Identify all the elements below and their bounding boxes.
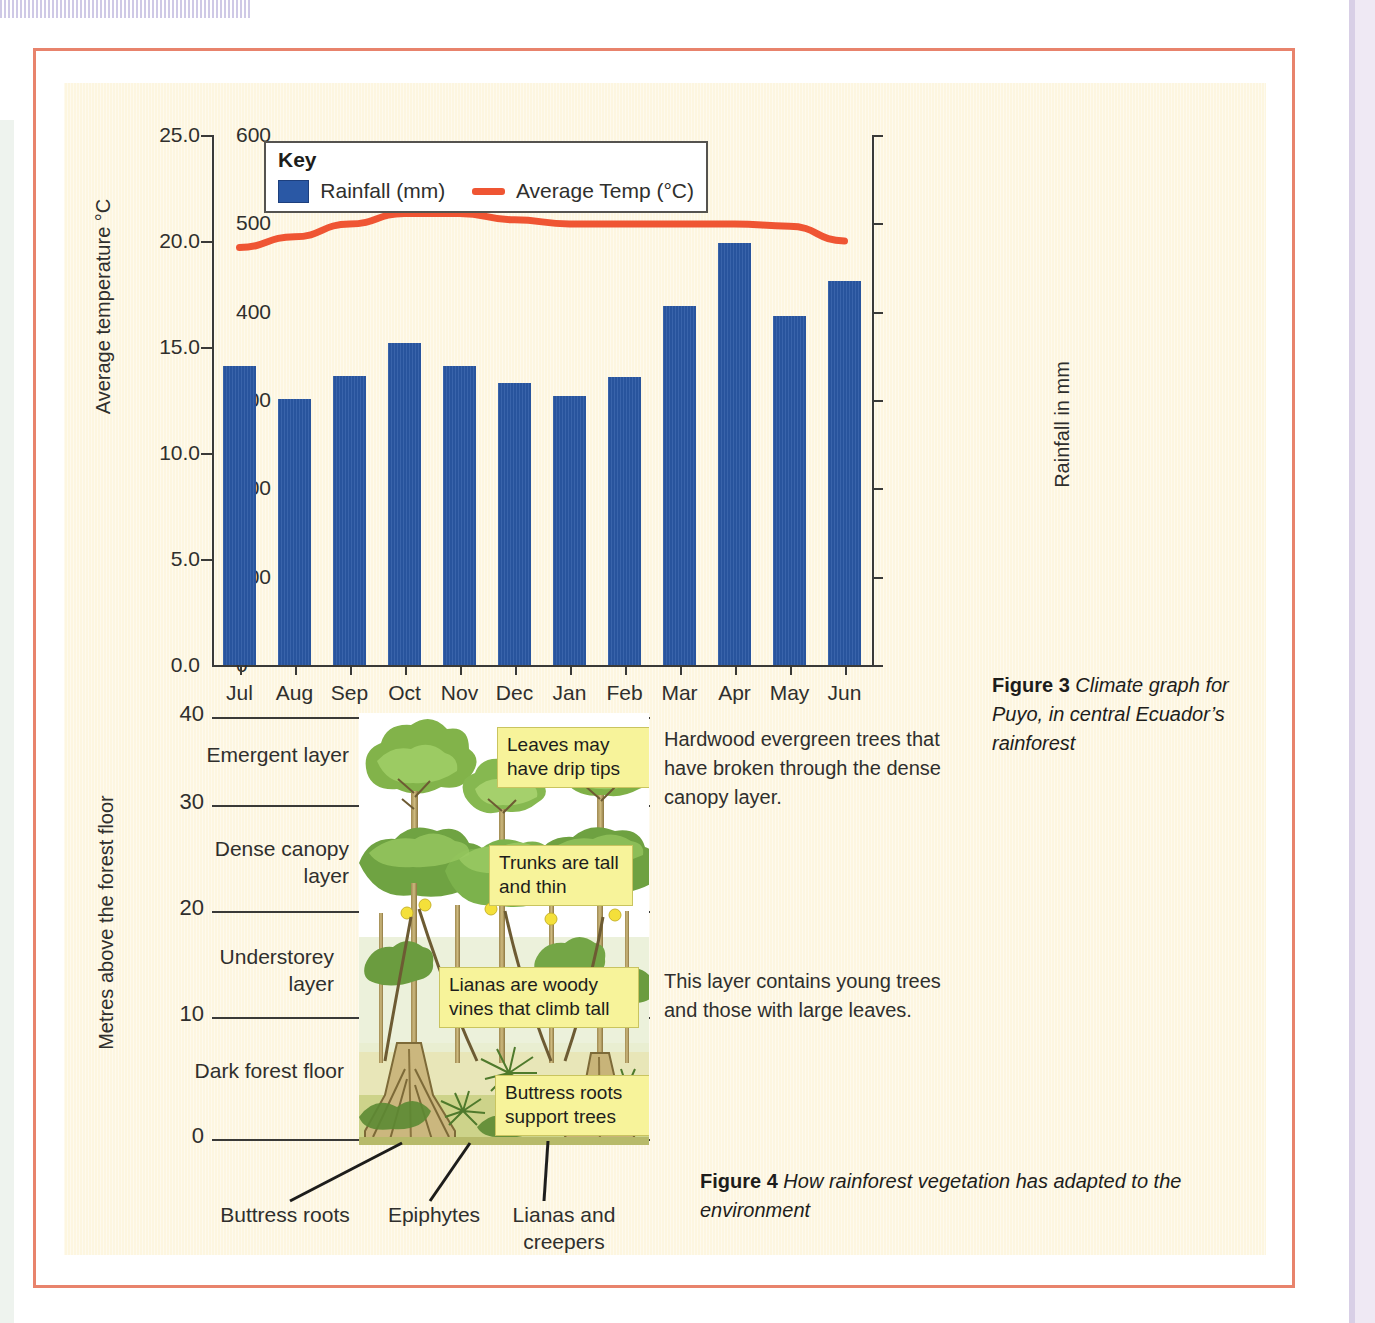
note-drip-tips: Leaves may have drip tips	[497, 727, 649, 788]
right-tick-600	[872, 135, 883, 137]
figure-4-vegetation-diagram: Metres above the forest floor 40 30 20 1…	[64, 695, 1266, 1255]
right-tick-label-400: 400	[236, 300, 271, 324]
side-text-understorey: This layer contains young trees and thos…	[664, 967, 964, 1025]
left-tick-25	[201, 135, 212, 137]
bar-jul	[223, 366, 256, 665]
left-axis-line	[212, 135, 214, 665]
note-lianas-woody-vines: Lianas are woody vines that climb tall	[439, 967, 639, 1028]
bar-mar	[663, 306, 696, 665]
legend-title: Key	[278, 149, 694, 171]
bar-may	[773, 316, 806, 665]
layer-label-emergent: Emergent layer	[199, 741, 349, 768]
bottom-label-lianas-creepers: Lianas and creepers	[494, 1201, 634, 1256]
x-tick-aug	[295, 665, 297, 675]
x-tick-feb	[625, 665, 627, 675]
left-tick-label-25: 25.0	[159, 123, 200, 147]
leader-lianas	[544, 1141, 548, 1201]
legend-rainfall-label: Rainfall (mm)	[320, 179, 445, 203]
left-tick-label-15: 15.0	[159, 335, 200, 359]
bottom-label-epiphytes: Epiphytes	[364, 1201, 504, 1228]
right-tick-300	[872, 400, 883, 402]
bar-oct	[388, 343, 421, 665]
right-tick-0	[872, 665, 883, 667]
note-buttress-roots: Buttress roots support trees	[495, 1075, 649, 1136]
left-axis-title: Average temperature °C	[92, 199, 115, 415]
chart-legend: Key Rainfall (mm) Average Temp (°C)	[264, 141, 708, 213]
layer-label-dense-canopy: Dense canopy layer	[199, 835, 349, 890]
height-label-20: 20	[164, 895, 204, 921]
bar-dec	[498, 383, 531, 665]
rainforest-cross-section-illustration: Leaves may have drip tips Trunks are tal…	[359, 713, 649, 1145]
right-tick-label-500: 500	[236, 211, 271, 235]
height-label-0: 0	[164, 1123, 204, 1149]
legend-temp-label: Average Temp (°C)	[516, 179, 694, 203]
left-tick-5	[201, 559, 212, 561]
plot-area: 25.0 20.0 15.0 10.0 5.0 0.0 600 500 400 …	[212, 135, 872, 665]
x-tick-jun	[845, 665, 847, 675]
bar-aug	[278, 399, 311, 665]
bottom-label-buttress-roots: Buttress roots	[220, 1201, 350, 1228]
right-tick-100	[872, 577, 883, 579]
legend-temp-line-swatch	[472, 188, 505, 195]
bar-nov	[443, 366, 476, 665]
left-tick-10	[201, 453, 212, 455]
left-tick-label-10: 10.0	[159, 441, 200, 465]
figure-3-caption-label: Figure 3	[992, 674, 1070, 696]
leader-epiphytes	[430, 1143, 470, 1201]
height-label-30: 30	[164, 789, 204, 815]
height-label-40: 40	[164, 701, 204, 727]
x-tick-apr	[735, 665, 737, 675]
leader-lines	[212, 1139, 692, 1209]
bar-sep	[333, 376, 366, 665]
height-label-10: 10	[164, 1001, 204, 1027]
left-tick-20	[201, 241, 212, 243]
x-tick-may	[790, 665, 792, 675]
x-tick-nov	[460, 665, 462, 675]
page-content-area: Average temperature °C Rainfall in mm 25…	[64, 83, 1266, 1255]
bar-jan	[553, 396, 586, 665]
bar-feb	[608, 377, 641, 665]
decorative-right-band	[1355, 0, 1375, 1323]
x-tick-jan	[570, 665, 572, 675]
figure-4-caption-label: Figure 4	[700, 1170, 778, 1192]
textbook-page: Average temperature °C Rainfall in mm 25…	[33, 48, 1295, 1288]
x-tick-jul	[240, 665, 242, 675]
right-tick-400	[872, 312, 883, 314]
bar-apr	[718, 243, 751, 665]
x-tick-mar	[680, 665, 682, 675]
x-axis-line	[212, 665, 874, 667]
right-axis-title: Rainfall in mm	[1051, 361, 1074, 488]
left-tick-label-5: 5.0	[171, 547, 200, 571]
left-tick-label-20: 20.0	[159, 229, 200, 253]
left-tick-15	[201, 347, 212, 349]
note-tall-thin-trunks: Trunks are tall and thin	[489, 845, 633, 906]
figure-3-climate-graph: Average temperature °C Rainfall in mm 25…	[64, 83, 1266, 683]
side-text-emergent: Hardwood evergreen trees that have broke…	[664, 725, 964, 812]
decorative-left-band	[0, 120, 14, 1323]
x-tick-sep	[350, 665, 352, 675]
legend-rainfall-swatch	[278, 180, 309, 203]
right-tick-500	[872, 223, 883, 225]
layer-label-dark-forest-floor: Dark forest floor	[194, 1057, 344, 1084]
decorative-top-hatch	[0, 0, 250, 18]
x-tick-oct	[405, 665, 407, 675]
x-tick-dec	[515, 665, 517, 675]
bar-jun	[828, 281, 861, 665]
left-tick-label-0: 0.0	[171, 653, 200, 677]
figure-4-y-axis-title: Metres above the forest floor	[95, 773, 118, 1073]
layer-label-understorey: Understorey layer	[184, 943, 334, 998]
leader-buttress-roots	[290, 1143, 402, 1201]
temperature-line-path	[240, 213, 845, 247]
decorative-right-band-inner	[1349, 0, 1355, 1323]
figure-4-caption: Figure 4 How rainforest vegetation has a…	[700, 1167, 1220, 1225]
right-tick-200	[872, 488, 883, 490]
